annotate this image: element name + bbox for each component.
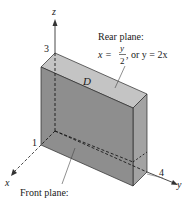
x-tick-label: 1 (32, 137, 37, 148)
rear-plane-eq-rest: , or y = 2x (126, 49, 167, 60)
rear-plane-eq-lhs: x = (97, 49, 112, 60)
z-tick-label: 3 (44, 43, 49, 54)
region-diagram: z 3 1 x 4 y D Rear plane: x = y 2 , or y… (0, 0, 184, 201)
region-label: D (82, 75, 91, 87)
front-plane-title: Front plane: (20, 187, 69, 198)
y-axis-label: y (176, 179, 182, 190)
rear-plane-eq-num: y (119, 43, 124, 53)
y-tick-label: 4 (159, 167, 164, 178)
x-axis-label: x (4, 177, 10, 188)
z-axis-arrow-icon (53, 19, 58, 26)
z-axis-label: z (51, 6, 56, 17)
x-axis (14, 145, 41, 172)
rear-plane-eq-den: 2 (120, 56, 125, 66)
side-face (133, 94, 147, 186)
rear-plane-title: Rear plane: (98, 31, 144, 42)
